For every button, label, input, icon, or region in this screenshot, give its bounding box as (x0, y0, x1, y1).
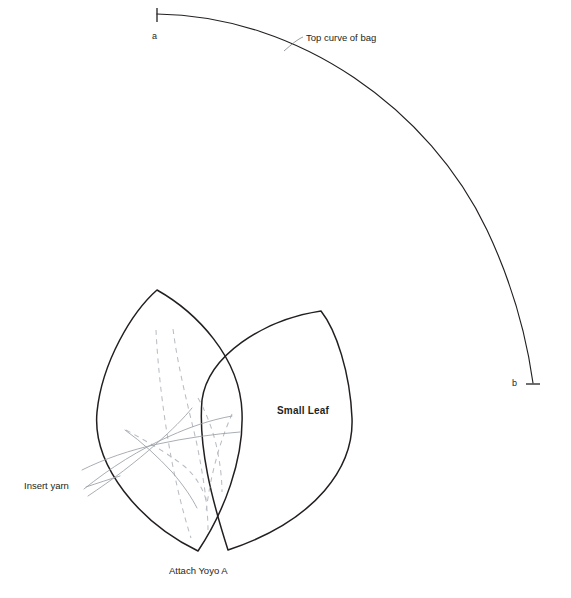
dashed-guide-5 (206, 414, 232, 512)
yarn-strand-1 (84, 416, 232, 489)
yarn-strands (82, 408, 240, 508)
left-leaf-group (97, 290, 242, 551)
label-attach-yoyo-a: Attach Yoyo A (169, 566, 228, 576)
yarn-strand-4 (125, 430, 197, 508)
dashed-guide-2 (173, 329, 208, 530)
label-insert-yarn: Insert yarn (24, 481, 69, 491)
top-curve-group (157, 8, 540, 384)
pattern-drawing (0, 0, 571, 598)
yarn-strand-2 (82, 432, 240, 470)
dashed-guide-3 (126, 430, 206, 500)
label-small-leaf: Small Leaf (277, 406, 329, 416)
diagram-canvas: Top curve of bag a b Small Leaf Insert y… (0, 0, 571, 598)
small-leaf-outline (201, 311, 352, 550)
label-top-curve-of-bag: Top curve of bag (306, 33, 376, 43)
dashed-guide-lines (126, 329, 232, 538)
label-point-a: a (152, 32, 157, 41)
top-curve-of-bag-arc (157, 14, 533, 383)
right-leaf-group (201, 311, 352, 550)
large-leaf-outline (97, 290, 242, 551)
label-point-b: b (512, 379, 517, 388)
